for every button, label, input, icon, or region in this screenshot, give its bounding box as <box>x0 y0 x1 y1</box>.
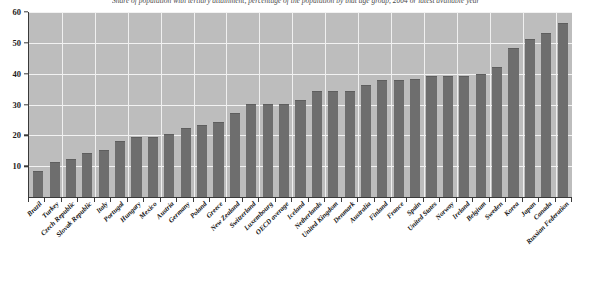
y-tick-label-60: 60 <box>13 7 22 17</box>
bar[interactable] <box>230 113 240 197</box>
bar[interactable] <box>525 39 535 197</box>
bar[interactable] <box>50 162 60 197</box>
bar[interactable] <box>492 67 502 198</box>
bar[interactable] <box>164 134 174 197</box>
bar[interactable] <box>508 48 518 197</box>
bar[interactable] <box>410 79 420 197</box>
bar[interactable] <box>82 153 92 197</box>
bar-slot <box>358 12 374 197</box>
bar-slot <box>96 12 112 197</box>
x-tick <box>571 197 572 202</box>
bar-series <box>29 12 572 197</box>
x-axis-labels: BrazilTurkeyCzech RepublicSlovak Republi… <box>28 200 571 282</box>
bar[interactable] <box>66 159 76 197</box>
bar-slot <box>374 12 390 197</box>
bar[interactable] <box>99 150 109 197</box>
y-axis: 102030405060 <box>0 0 26 209</box>
bar[interactable] <box>345 91 355 197</box>
x-axis-label-poland: Poland <box>188 200 208 220</box>
y-tick-label-40: 40 <box>13 69 22 79</box>
bar[interactable] <box>558 23 568 197</box>
bar-slot <box>473 12 489 197</box>
bar-slot <box>63 12 79 197</box>
bar-slot <box>178 12 194 197</box>
bar[interactable] <box>213 122 223 197</box>
bar[interactable] <box>377 80 387 197</box>
y-tick-label-20: 20 <box>13 130 22 140</box>
bar-slot <box>145 12 161 197</box>
x-axis-label-korea: Korea <box>503 200 521 218</box>
x-axis-label-text: Poland <box>188 200 208 220</box>
bar-slot <box>112 12 128 197</box>
x-axis-label-france: France <box>385 200 406 221</box>
bar-slot <box>522 12 538 197</box>
bar-slot <box>505 12 521 197</box>
bar-slot <box>79 12 95 197</box>
plot-inner <box>29 12 572 197</box>
bar-slot <box>210 12 226 197</box>
bar[interactable] <box>328 91 338 197</box>
bar-slot <box>128 12 144 197</box>
bar-slot <box>309 12 325 197</box>
bar[interactable] <box>426 76 436 197</box>
bar[interactable] <box>312 91 322 197</box>
bar-slot <box>161 12 177 197</box>
bar-slot <box>227 12 243 197</box>
bar-slot <box>30 12 46 197</box>
bar[interactable] <box>361 85 371 197</box>
bar-slot <box>194 12 210 197</box>
bar-slot <box>555 12 571 197</box>
bar[interactable] <box>394 80 404 197</box>
bar[interactable] <box>443 76 453 197</box>
bar[interactable] <box>148 137 158 197</box>
bar-slot <box>489 12 505 197</box>
bar-slot <box>46 12 62 197</box>
bar[interactable] <box>459 76 469 197</box>
bar[interactable] <box>295 100 305 197</box>
y-tick-label-50: 50 <box>13 38 22 48</box>
bar-slot <box>440 12 456 197</box>
bar-slot <box>292 12 308 197</box>
bar[interactable] <box>115 141 125 198</box>
chart-container: Share of population with tertiary attain… <box>0 0 600 282</box>
x-axis-label-mexico: Mexico <box>138 200 159 221</box>
y-tick-label-10: 10 <box>13 161 22 171</box>
bar[interactable] <box>33 171 43 197</box>
bar-slot <box>407 12 423 197</box>
bar[interactable] <box>131 137 141 197</box>
bar-slot <box>391 12 407 197</box>
bar[interactable] <box>279 104 289 198</box>
bar-slot <box>538 12 554 197</box>
bar-slot <box>423 12 439 197</box>
bar-slot <box>243 12 259 197</box>
bar-slot <box>456 12 472 197</box>
bar[interactable] <box>476 74 486 197</box>
bar[interactable] <box>246 104 256 198</box>
x-axis-label-text: France <box>385 200 406 221</box>
bar-slot <box>259 12 275 197</box>
bar[interactable] <box>541 33 551 197</box>
x-axis-label-text: Korea <box>503 200 521 218</box>
bar-slot <box>276 12 292 197</box>
bar-slot <box>325 12 341 197</box>
bar[interactable] <box>197 125 207 197</box>
x-axis-label-text: Mexico <box>138 200 159 221</box>
bar[interactable] <box>181 128 191 197</box>
chart-title: Share of population with tertiary attain… <box>112 0 582 5</box>
bar-slot <box>341 12 357 197</box>
y-tick-label-30: 30 <box>13 100 22 110</box>
plot-area <box>28 12 572 198</box>
bar[interactable] <box>263 104 273 198</box>
